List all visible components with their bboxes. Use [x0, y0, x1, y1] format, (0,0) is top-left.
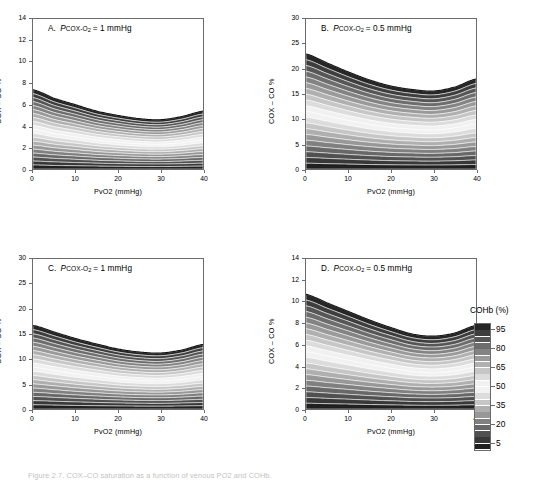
contour-band: [33, 371, 203, 386]
param-symbol: P: [61, 264, 67, 273]
contour-band: [306, 294, 476, 339]
y-tick-label: 25: [279, 39, 299, 46]
y-tick-label: 10: [279, 115, 299, 122]
colorbar-tick-label: 80: [496, 343, 505, 353]
contour-band: [33, 161, 203, 166]
y-tick-label: 2: [279, 384, 299, 391]
y-tick-label: 10: [6, 57, 26, 64]
y-tick-label: 5: [6, 381, 26, 388]
contour-band: [33, 380, 203, 392]
y-tick-label: 25: [6, 279, 26, 286]
colorbar-tick-mark: [491, 386, 495, 387]
contour-band: [306, 363, 476, 383]
x-tick-label: 0: [295, 175, 315, 182]
x-tick-mark: [161, 410, 162, 413]
colorbar-tick-mark: [491, 424, 495, 425]
contour-envelope: [33, 326, 203, 354]
y-tick-mark: [29, 18, 32, 19]
y-tick-mark: [302, 301, 305, 302]
panel-letter: C.: [48, 264, 61, 273]
contour-band: [306, 323, 476, 358]
y-tick-label: 12: [279, 276, 299, 283]
x-tick-label: 30: [424, 175, 444, 182]
y-tick-mark: [29, 283, 32, 284]
contour-band: [306, 129, 476, 146]
contour-band: [306, 163, 476, 169]
y-tick-label: 20: [6, 305, 26, 312]
contour-band: [33, 342, 203, 367]
param-subscript: COX-O: [339, 25, 361, 32]
colorbar-tick-mark: [491, 367, 495, 368]
x-tick-label: 20: [381, 415, 401, 422]
y-axis-label: COX – CO %: [267, 78, 276, 124]
contour-band: [306, 392, 476, 402]
y-tick-label: 8: [279, 319, 299, 326]
x-tick-mark: [32, 410, 33, 413]
contour-band: [306, 398, 476, 406]
x-tick-label: 40: [194, 415, 214, 422]
panel-letter: B.: [321, 24, 333, 33]
y-tick-mark: [29, 309, 32, 310]
panel-title-d: D. PCOX-O2 = 0.5 mmHg: [321, 264, 412, 273]
x-tick-label: 10: [65, 175, 85, 182]
y-tick-label: 2: [6, 144, 26, 151]
y-tick-mark: [302, 323, 305, 324]
contour-band: [306, 71, 476, 106]
x-axis-label: PvO2 (mmHg): [32, 427, 204, 436]
y-tick-mark: [302, 258, 305, 259]
plot-area-c: [32, 258, 204, 410]
contour-band: [33, 165, 203, 169]
contour-band: [306, 158, 476, 166]
panel-b: B. PCOX-O2 = 0.5 mmHg0510152025300102030…: [0, 0, 546, 481]
contour-band: [33, 106, 203, 133]
y-tick-label: 20: [279, 65, 299, 72]
y-tick-mark: [302, 345, 305, 346]
colorbar-tick-label: 5: [496, 438, 501, 448]
contour-band: [306, 403, 476, 409]
y-tick-label: 30: [6, 254, 26, 261]
contour-band: [306, 60, 476, 99]
x-tick-mark: [391, 410, 392, 413]
colorbar-tick-label: 50: [496, 381, 505, 391]
figure-caption: Figure 2.7. COX–CO saturation as a funct…: [28, 471, 272, 480]
y-tick-label: 4: [6, 123, 26, 130]
contour-band: [33, 114, 203, 138]
param-value: = 1 mmHg: [92, 264, 133, 273]
y-tick-mark: [29, 170, 32, 171]
y-tick-label: 0: [6, 406, 26, 413]
contour-band: [306, 117, 476, 138]
contour-band: [33, 384, 203, 395]
contour-band: [33, 145, 203, 156]
contour-band: [306, 306, 476, 347]
x-tick-label: 10: [65, 415, 85, 422]
y-tick-mark: [29, 127, 32, 128]
y-tick-mark: [29, 105, 32, 106]
colorbar-title: COHb (%): [470, 305, 509, 315]
contour-band: [33, 157, 203, 164]
y-tick-label: 0: [6, 166, 26, 173]
contour-bands-d: [306, 259, 476, 409]
y-tick-mark: [302, 388, 305, 389]
panel-title-b: B. PCOX-O2 = 0.5 mmHg: [321, 24, 412, 33]
x-tick-label: 10: [338, 415, 358, 422]
param-subscript-2: 2: [361, 267, 364, 273]
contour-band: [306, 146, 476, 157]
contour-band: [33, 121, 203, 142]
y-tick-mark: [29, 40, 32, 41]
contour-band: [306, 352, 476, 377]
x-tick-mark: [32, 170, 33, 173]
y-tick-mark: [302, 280, 305, 281]
y-tick-label: 0: [279, 166, 299, 173]
y-tick-mark: [302, 69, 305, 70]
contour-band: [33, 346, 203, 369]
panel-a: A. PCOX-O2 = 1 mmHg02468101214010203040C…: [0, 0, 546, 481]
contour-band: [33, 359, 203, 378]
y-tick-mark: [302, 94, 305, 95]
panel-letter: D.: [321, 264, 334, 273]
x-tick-label: 0: [22, 175, 42, 182]
contour-band: [33, 355, 203, 376]
colorbar-legend: COHb (%) 9580655035205: [468, 305, 546, 455]
x-tick-mark: [118, 410, 119, 413]
contour-band: [306, 89, 476, 119]
y-tick-label: 8: [6, 79, 26, 86]
